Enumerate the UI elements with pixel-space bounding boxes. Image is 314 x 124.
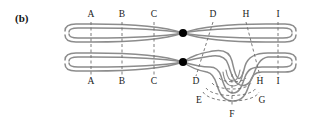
strand-group-lower-pair-1 [65,53,183,71]
panel-label-b: (b) [15,12,28,24]
marker-bottom-I: I [276,76,279,86]
node-lower-dot [179,58,187,66]
marker-bottom-H: H [257,76,264,86]
marker-top-D: D [210,9,217,19]
figure-panel-b: (b) A B C D H I A B C D H I E G F [0,0,314,124]
pinch-point-nodes [179,29,187,66]
marker-top-H: H [243,9,250,19]
marker-loop-F: F [229,109,234,119]
marker-top-A: A [88,9,95,19]
marker-top-C: C [151,9,157,19]
marker-bottom-B: B [119,76,125,86]
marker-bottom-D: D [193,76,200,86]
strand-group-upper-right [183,24,296,42]
node-upper-dot [179,29,187,37]
marker-top-I: I [276,9,279,19]
marker-loop-E: E [196,95,202,105]
marker-top-B: B [119,9,125,19]
strand-group-upper-pair-1 [65,24,183,42]
marker-loop-G: G [259,95,266,105]
arc-E-G-mid [206,88,256,96]
marker-bottom-A: A [88,76,95,86]
marker-bottom-C: C [151,76,157,86]
